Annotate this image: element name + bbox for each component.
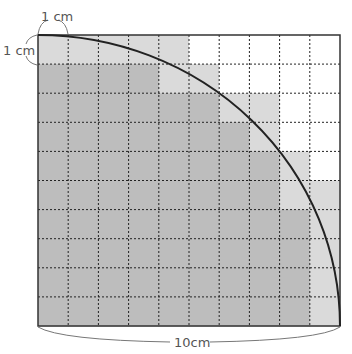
grid-cell [280,239,311,269]
grid-cell [189,210,220,240]
grid-cell [219,268,250,298]
grid-cell [129,122,160,152]
grid-cell [98,181,129,211]
grid-cell [219,210,250,240]
grid-cell [98,122,129,152]
grid-cell [249,93,280,123]
grid-cell [280,93,311,123]
grid-cell [98,268,129,298]
grid-cell [280,181,311,211]
grid-cell [129,151,160,181]
grid-cell [189,268,220,298]
grid-cell [129,268,160,298]
grid-cell [68,64,99,94]
grid-cell [189,181,220,211]
grid-cell [98,151,129,181]
grid-cell [68,268,99,298]
grid-cell [249,297,280,327]
grid-cell [189,239,220,269]
grid-cell [249,151,280,181]
grid-cell [249,181,280,211]
grid-cell [68,210,99,240]
grid-cell [159,64,190,94]
bottom-side-label: 10cm [174,335,210,350]
grid-cell [219,64,250,94]
top-cell-label: 1 cm [41,9,73,24]
grid-cell [129,210,160,240]
grid-cell [159,239,190,269]
grid-cell [310,239,341,269]
grid-cell [38,181,69,211]
grid-cell [249,239,280,269]
grid-cell [249,268,280,298]
grid-cell [98,93,129,123]
grid-cell [38,239,69,269]
grid-cell [38,151,69,181]
grid-cell [159,297,190,327]
grid-cell [68,122,99,152]
grid-cell [249,35,280,65]
grid-cell [38,122,69,152]
grid-cell [219,181,250,211]
grid-cell [219,297,250,327]
grid-cell [189,35,220,65]
grid-cell [249,64,280,94]
grid-cell [280,35,311,65]
grid-cell [159,151,190,181]
grid-cell [159,122,190,152]
grid-cell [38,268,69,298]
grid-cell [189,122,220,152]
grid-cell [68,297,99,327]
grid-cell [129,93,160,123]
grid-cell [38,64,69,94]
grid-cell [98,35,129,65]
grid-cell [310,297,341,327]
grid-cell [98,239,129,269]
grid-cell [129,181,160,211]
grid-cell [310,64,341,94]
grid-cell [159,210,190,240]
grid-cell [310,181,341,211]
grid-cell [189,93,220,123]
quarter-circle-grid-diagram: 1 cm 1 cm 10cm [0,0,352,354]
grid-cell [280,122,311,152]
grid-cell [98,210,129,240]
grid-cell [68,239,99,269]
grid-cell [219,151,250,181]
grid-cell [129,297,160,327]
grid-cell [68,93,99,123]
grid-cell [159,181,190,211]
grid-cell [219,239,250,269]
grid-cell [280,210,311,240]
grid-cell [68,151,99,181]
grid-cell [280,268,311,298]
grid-cell [219,35,250,65]
grid-cell [129,64,160,94]
grid-cell [159,93,190,123]
left-cell-label: 1 cm [3,43,35,58]
grid-cell [310,93,341,123]
grid-cell [159,268,190,298]
grid-cell [310,151,341,181]
grid-cell [310,35,341,65]
grid-cell [98,64,129,94]
grid-cell [68,181,99,211]
grid-cell [129,239,160,269]
grid-cell [280,297,311,327]
grid-cell [310,122,341,152]
grid-cell [38,297,69,327]
grid-cell [219,122,250,152]
grid-cell [249,210,280,240]
grid-cell [38,93,69,123]
grid-cell [189,151,220,181]
grid-cell [98,297,129,327]
grid-cell [159,35,190,65]
grid-cell [38,35,69,65]
grid-cell [280,64,311,94]
grid-cell [38,210,69,240]
grid-cell [189,297,220,327]
